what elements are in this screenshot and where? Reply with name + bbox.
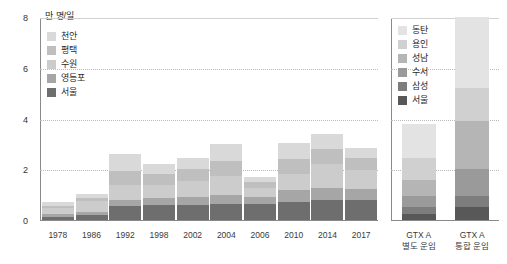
- gtx-x-tick-label: GTX A통합 운임: [445, 230, 499, 252]
- bar-segment: [244, 197, 276, 205]
- bar-segment: [311, 164, 343, 187]
- bar-segment: [278, 202, 310, 220]
- legend-gtx-label: 수서: [412, 67, 428, 77]
- bar-segment: [455, 169, 489, 196]
- bar-segment: [455, 196, 489, 207]
- legend-history-item: 영등포: [47, 72, 85, 84]
- bar-stack: [244, 177, 276, 220]
- legend-history-item: 서울: [47, 86, 85, 98]
- legend-history-label: 수원: [61, 59, 77, 69]
- legend-gtx-item: 성남: [398, 52, 428, 64]
- legend-gtx-label: 용인: [412, 39, 428, 49]
- bar-segment: [109, 185, 141, 201]
- bar-segment: [278, 143, 310, 159]
- legend-swatch-icon: [47, 60, 56, 69]
- bar-segment: [42, 217, 74, 220]
- y-tick-label: 8: [10, 14, 28, 23]
- bar-segment: [177, 197, 209, 205]
- bar-segment: [311, 188, 343, 201]
- bar-segment: [345, 158, 377, 169]
- y-tick-label: 0: [10, 217, 28, 226]
- legend-history-item: 천안: [47, 30, 85, 42]
- bar-stack: [455, 17, 489, 220]
- legend-gtx-item: 삼성: [398, 80, 428, 92]
- bar-segment: [177, 205, 209, 220]
- chart-root: 86420 만 명/일 1978198619921998200220042006…: [0, 0, 507, 264]
- bar-segment: [143, 185, 175, 198]
- legend-swatch-icon: [398, 82, 407, 91]
- legend-swatch-icon: [398, 54, 407, 63]
- bar-segment: [455, 121, 489, 169]
- bar-segment: [76, 201, 108, 212]
- bar-stack: [143, 164, 175, 220]
- bar-segment: [210, 176, 242, 194]
- bar-segment: [210, 144, 242, 161]
- legend-swatch-icon: [398, 40, 407, 49]
- bar-segment: [109, 206, 141, 220]
- legend-gtx-item: 동탄: [398, 24, 428, 36]
- bar-segment: [402, 207, 436, 214]
- bar-stack: [345, 148, 377, 220]
- bar-segment: [402, 124, 436, 158]
- history-bars: [41, 18, 378, 220]
- legend-gtx-label: 성남: [412, 53, 428, 63]
- gtx-label-line2: 통합 운임: [445, 241, 499, 252]
- bar-segment: [402, 196, 436, 207]
- bar-stack: [76, 194, 108, 220]
- legend-swatch-icon: [398, 68, 407, 77]
- gtx-x-tick-label: GTX A별도 운임: [392, 230, 446, 252]
- bar-segment: [278, 159, 310, 175]
- bar-segment: [345, 170, 377, 189]
- bar-stack: [109, 154, 141, 220]
- gtx-x-axis-line: [391, 220, 499, 221]
- bar-segment: [210, 195, 242, 205]
- bar-stack: [278, 143, 310, 220]
- bar-segment: [109, 154, 141, 171]
- bar-segment: [402, 158, 436, 180]
- legend-history-label: 천안: [61, 31, 77, 41]
- bar-segment: [76, 215, 108, 220]
- bar-segment: [455, 17, 489, 88]
- legend-gtx-item: 용인: [398, 38, 428, 50]
- legend-gtx-item: 서울: [398, 94, 428, 106]
- x-tick-label: 2017: [338, 230, 384, 241]
- legend-swatch-icon: [398, 26, 407, 35]
- legend-swatch-icon: [47, 46, 56, 55]
- bar-segment: [455, 88, 489, 121]
- y-axis: 86420: [4, 0, 28, 264]
- bar-segment: [177, 181, 209, 196]
- gtx-label-line1: GTX A: [460, 230, 485, 240]
- legend-swatch-icon: [398, 96, 407, 105]
- legend-history: 천안평택수원영등포서울: [47, 30, 85, 98]
- bar-stack: [42, 202, 74, 220]
- bar-segment: [311, 149, 343, 164]
- bar-segment: [402, 180, 436, 196]
- y-tick-label: 6: [10, 65, 28, 74]
- bar-segment: [244, 204, 276, 220]
- bar-segment: [177, 169, 209, 182]
- bar-segment: [345, 189, 377, 200]
- legend-gtx-label: 서울: [412, 95, 428, 105]
- bar-stack: [177, 158, 209, 220]
- legend-history-label: 영등포: [61, 73, 85, 83]
- bar-segment: [311, 134, 343, 150]
- y-tick-label: 4: [10, 116, 28, 125]
- legend-history-item: 평택: [47, 44, 85, 56]
- legend-history-label: 서울: [61, 87, 77, 97]
- legend-swatch-icon: [47, 88, 56, 97]
- bar-stack: [311, 134, 343, 220]
- legend-swatch-icon: [47, 74, 56, 83]
- bar-segment: [244, 188, 276, 197]
- legend-gtx-item: 수서: [398, 66, 428, 78]
- bar-segment: [345, 148, 377, 159]
- bar-segment: [278, 190, 310, 202]
- legend-gtx-label: 동탄: [412, 25, 428, 35]
- bar-segment: [278, 174, 310, 190]
- gtx-label-line2: 별도 운임: [392, 241, 446, 252]
- panel-history: [40, 18, 378, 221]
- bar-segment: [455, 207, 489, 220]
- bar-segment: [402, 214, 436, 220]
- legend-history-item: 수원: [47, 58, 85, 70]
- bar-segment: [143, 198, 175, 206]
- bar-segment: [345, 200, 377, 220]
